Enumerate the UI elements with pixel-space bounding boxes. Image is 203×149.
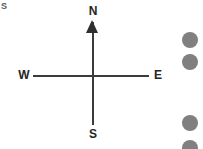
compass-rose: N W E S: [0, 0, 203, 149]
compass-label-north: N: [85, 5, 101, 18]
compass-label-east: E: [150, 69, 166, 82]
north-arrow-icon: [86, 20, 98, 33]
marker-dot: [182, 32, 198, 48]
compass-vertical-axis: [92, 22, 94, 125]
marker-dot: [182, 54, 198, 70]
compass-label-west: W: [16, 69, 32, 82]
marker-dot: [182, 140, 198, 149]
screenshot-canvas: S N W E S: [0, 0, 203, 149]
compass-label-south: S: [85, 128, 101, 141]
marker-dot: [182, 115, 198, 131]
compass-horizontal-axis: [33, 75, 149, 77]
